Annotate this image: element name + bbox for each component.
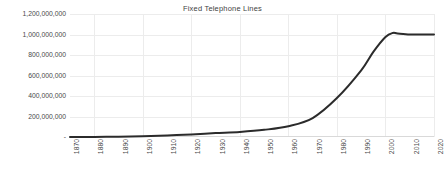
- y-tick-label: 1,000,000,000: [0, 31, 66, 39]
- x-tick-label: 1970: [316, 139, 323, 154]
- x-tick-label: 1980: [340, 139, 347, 154]
- x-tick-label: 1870: [73, 139, 80, 154]
- chart-container: Fixed Telephone Lines -200,000,000400,00…: [0, 0, 445, 173]
- y-tick-label: 600,000,000: [0, 72, 66, 80]
- chart-title: Fixed Telephone Lines: [0, 4, 445, 13]
- y-tick-label: -: [0, 133, 66, 141]
- y-tick-label: 1,200,000,000: [0, 10, 66, 18]
- line-series-fixed-telephone-lines: [70, 33, 434, 137]
- x-tick-label: 2010: [413, 139, 420, 154]
- y-tick-label: 200,000,000: [0, 113, 66, 121]
- x-tick-label: 1940: [243, 139, 250, 154]
- x-tick-label: 1920: [194, 139, 201, 154]
- x-tick-label: 1910: [170, 139, 177, 154]
- x-tick-label: 1950: [267, 139, 274, 154]
- x-tick-label: 2000: [388, 139, 395, 154]
- x-tick-label: 1890: [122, 139, 129, 154]
- y-tick-label: 400,000,000: [0, 92, 66, 100]
- x-tick-label: 1900: [146, 139, 153, 154]
- series-layer: [70, 14, 434, 137]
- gridline-vertical: [434, 14, 435, 137]
- x-tick-label: 1930: [219, 139, 226, 154]
- y-tick-label: 800,000,000: [0, 51, 66, 59]
- x-axis: 1870188018901900191019201930194019501960…: [70, 139, 434, 173]
- x-tick-label: 1960: [291, 139, 298, 154]
- x-tick-label: 1990: [364, 139, 371, 154]
- x-tick-label: 2020: [437, 139, 444, 154]
- y-axis: -200,000,000400,000,000600,000,000800,00…: [0, 14, 66, 137]
- x-tick-label: 1880: [97, 139, 104, 154]
- plot-area: [70, 14, 434, 137]
